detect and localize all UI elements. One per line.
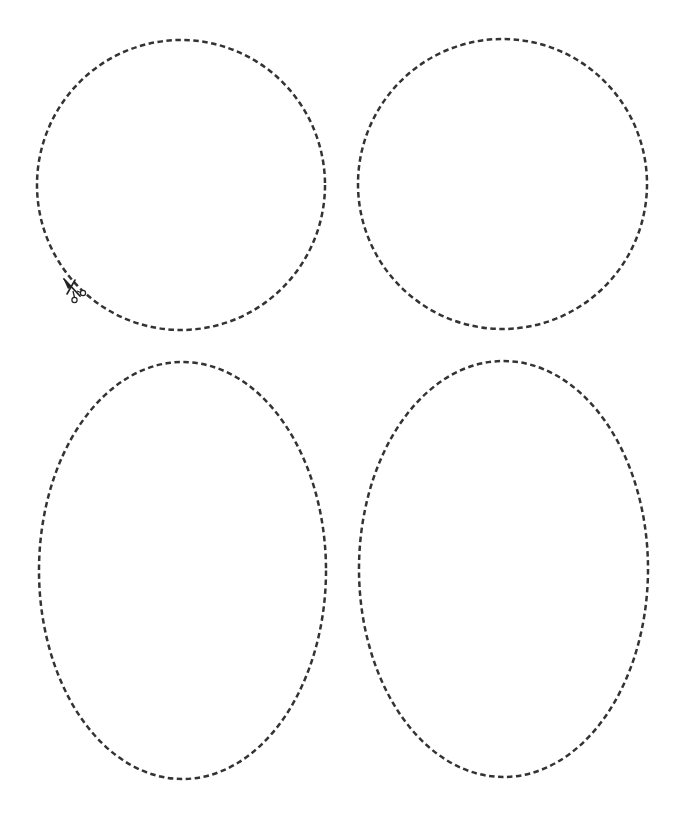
circle-top-left-cut-line [37,40,325,330]
scissors-icon [63,278,86,303]
cutout-template-canvas [0,0,691,823]
oval-bottom-right-cut-line [359,361,648,777]
circle-top-right-cut-line [358,39,647,329]
oval-bottom-left-cut-line [39,362,326,779]
